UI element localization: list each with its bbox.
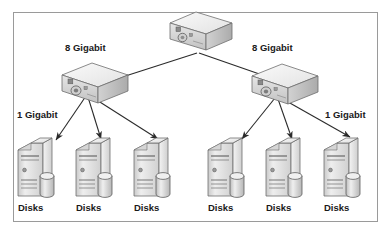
server-5-bevel	[266, 143, 279, 150]
server-2-bevel	[76, 143, 89, 150]
server-4-power-led	[213, 168, 217, 172]
server-label-1: Disks	[18, 203, 43, 213]
server-3-power-led	[139, 168, 143, 172]
server-4-disk-icon	[230, 173, 244, 198]
server-1-bevel	[18, 143, 31, 150]
server-1[interactable]	[18, 138, 54, 197]
server-6-power-led	[329, 168, 333, 172]
server-3[interactable]	[134, 138, 170, 197]
server-2[interactable]	[76, 138, 112, 197]
diagram-canvas: 8 Gigabit 8 Gigabit 1 Gigabit 1 Gigabit …	[0, 0, 391, 234]
server-4-bevel	[208, 143, 221, 150]
server-2-power-led	[81, 168, 85, 172]
server-label-6: Disks	[324, 203, 349, 213]
server-2-disk-icon	[98, 173, 112, 198]
server-5-power-led	[271, 168, 275, 172]
server-label-4: Disks	[208, 203, 233, 213]
server-5[interactable]	[266, 138, 302, 197]
server-6-disk-icon	[346, 173, 360, 198]
server-6-bevel	[324, 143, 337, 150]
server-label-5: Disks	[266, 203, 291, 213]
server-1-power-led	[23, 168, 27, 172]
label-uplink-right: 8 Gigabit	[252, 43, 293, 53]
server-1-disk-icon	[40, 173, 54, 198]
server-3-disk-icon	[156, 173, 170, 198]
label-downlink-left: 1 Gigabit	[17, 110, 58, 120]
server-6[interactable]	[324, 138, 360, 197]
label-uplink-left: 8 Gigabit	[65, 43, 106, 53]
server-label-2: Disks	[76, 203, 101, 213]
server-4[interactable]	[208, 138, 244, 197]
server-5-disk-icon	[288, 173, 302, 198]
label-downlink-right: 1 Gigabit	[325, 110, 366, 120]
server-3-bevel	[134, 143, 147, 150]
server-label-3: Disks	[134, 203, 159, 213]
